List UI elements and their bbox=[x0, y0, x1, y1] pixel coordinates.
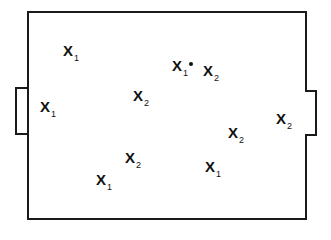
left-goal bbox=[15, 87, 27, 135]
player-team1: X1 bbox=[40, 99, 56, 114]
player-team2: X2 bbox=[125, 150, 141, 165]
player-team2: X2 bbox=[133, 88, 149, 103]
player-team1-with-ball: X1 bbox=[172, 58, 193, 73]
right-goal bbox=[305, 90, 317, 136]
player-team2: X2 bbox=[228, 125, 244, 140]
player-team1: X1 bbox=[96, 172, 112, 187]
player-team2: X2 bbox=[276, 111, 292, 126]
player-team1: X1 bbox=[205, 159, 221, 174]
ball-icon bbox=[189, 62, 193, 66]
player-team1: X1 bbox=[63, 43, 79, 58]
player-team2: X2 bbox=[203, 63, 219, 78]
